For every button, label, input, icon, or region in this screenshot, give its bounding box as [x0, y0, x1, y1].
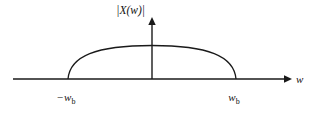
tick-label-positive-wb-sub: b — [236, 97, 240, 106]
spectrum-figure: |X(w)| w −wb wb — [0, 0, 318, 119]
figure-canvas: |X(w)| w −wb wb — [0, 0, 318, 119]
x-axis-arrowhead-icon — [284, 75, 292, 83]
tick-label-negative-wb-main: −w — [57, 91, 72, 103]
y-axis-arrowhead-icon — [148, 17, 155, 25]
x-axis-label: w — [296, 73, 304, 85]
svg-text:wb: wb — [228, 91, 239, 106]
tick-label-negative-wb: −wb — [57, 91, 76, 106]
tick-label-positive-wb: wb — [228, 91, 239, 106]
svg-text:−wb: −wb — [57, 91, 76, 106]
y-axis-label: |X(w)| — [116, 4, 145, 17]
tick-label-negative-wb-sub: b — [71, 97, 75, 106]
